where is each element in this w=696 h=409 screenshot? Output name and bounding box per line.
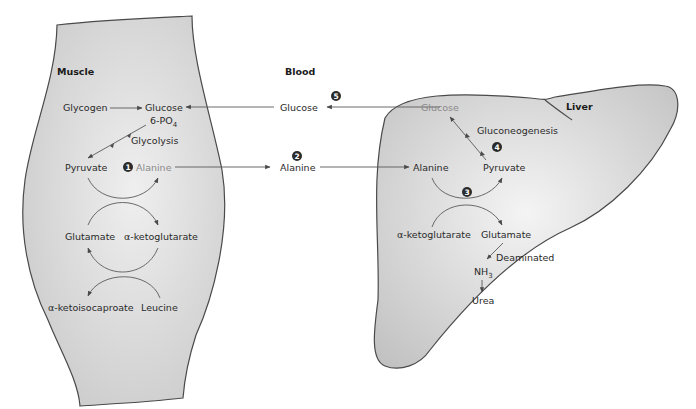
liver-alanine: Alanine (413, 162, 449, 173)
svg-text:2: 2 (294, 152, 299, 161)
blood-alanine: Alanine (280, 162, 316, 173)
muscle-leucine: Leucine (141, 302, 178, 313)
muscle-label: Muscle (57, 66, 94, 77)
muscle-alanine: Alanine (136, 162, 172, 173)
liver-gluconeogenesis: Gluconeogenesis (477, 125, 558, 136)
liver-label: Liver (566, 101, 593, 112)
svg-text:4: 4 (494, 143, 499, 152)
muscle-shape (23, 16, 225, 406)
liver-glutamate: Glutamate (481, 229, 531, 240)
liver-deaminated: Deaminated (496, 252, 554, 263)
muscle-glutamate: Glutamate (65, 231, 115, 242)
liver-alpha-ketoglutarate: α-ketoglutarate (397, 229, 471, 240)
muscle-pyruvate: Pyruvate (65, 162, 107, 173)
muscle-alpha-ketoglutarate: α-ketoglutarate (124, 231, 198, 242)
blood-glucose: Glucose (280, 102, 318, 113)
blood-label: Blood (285, 66, 315, 77)
muscle-glycolysis: Glycolysis (131, 135, 179, 146)
muscle-glucose: Glucose (145, 102, 183, 113)
liver-urea: Urea (472, 295, 494, 306)
muscle-glycogen: Glycogen (63, 102, 108, 113)
glucose-alanine-cycle-diagram: Muscle Blood Liver Glycogen Glucose 6-PO… (0, 0, 696, 409)
muscle-alpha-ketoisocaproate: α-ketoisocaproate (48, 302, 134, 313)
svg-text:3: 3 (464, 188, 469, 197)
svg-text:1: 1 (125, 163, 130, 172)
liver-glucose: Glucose (421, 102, 459, 113)
svg-text:5: 5 (333, 92, 338, 101)
liver-pyruvate: Pyruvate (483, 162, 525, 173)
